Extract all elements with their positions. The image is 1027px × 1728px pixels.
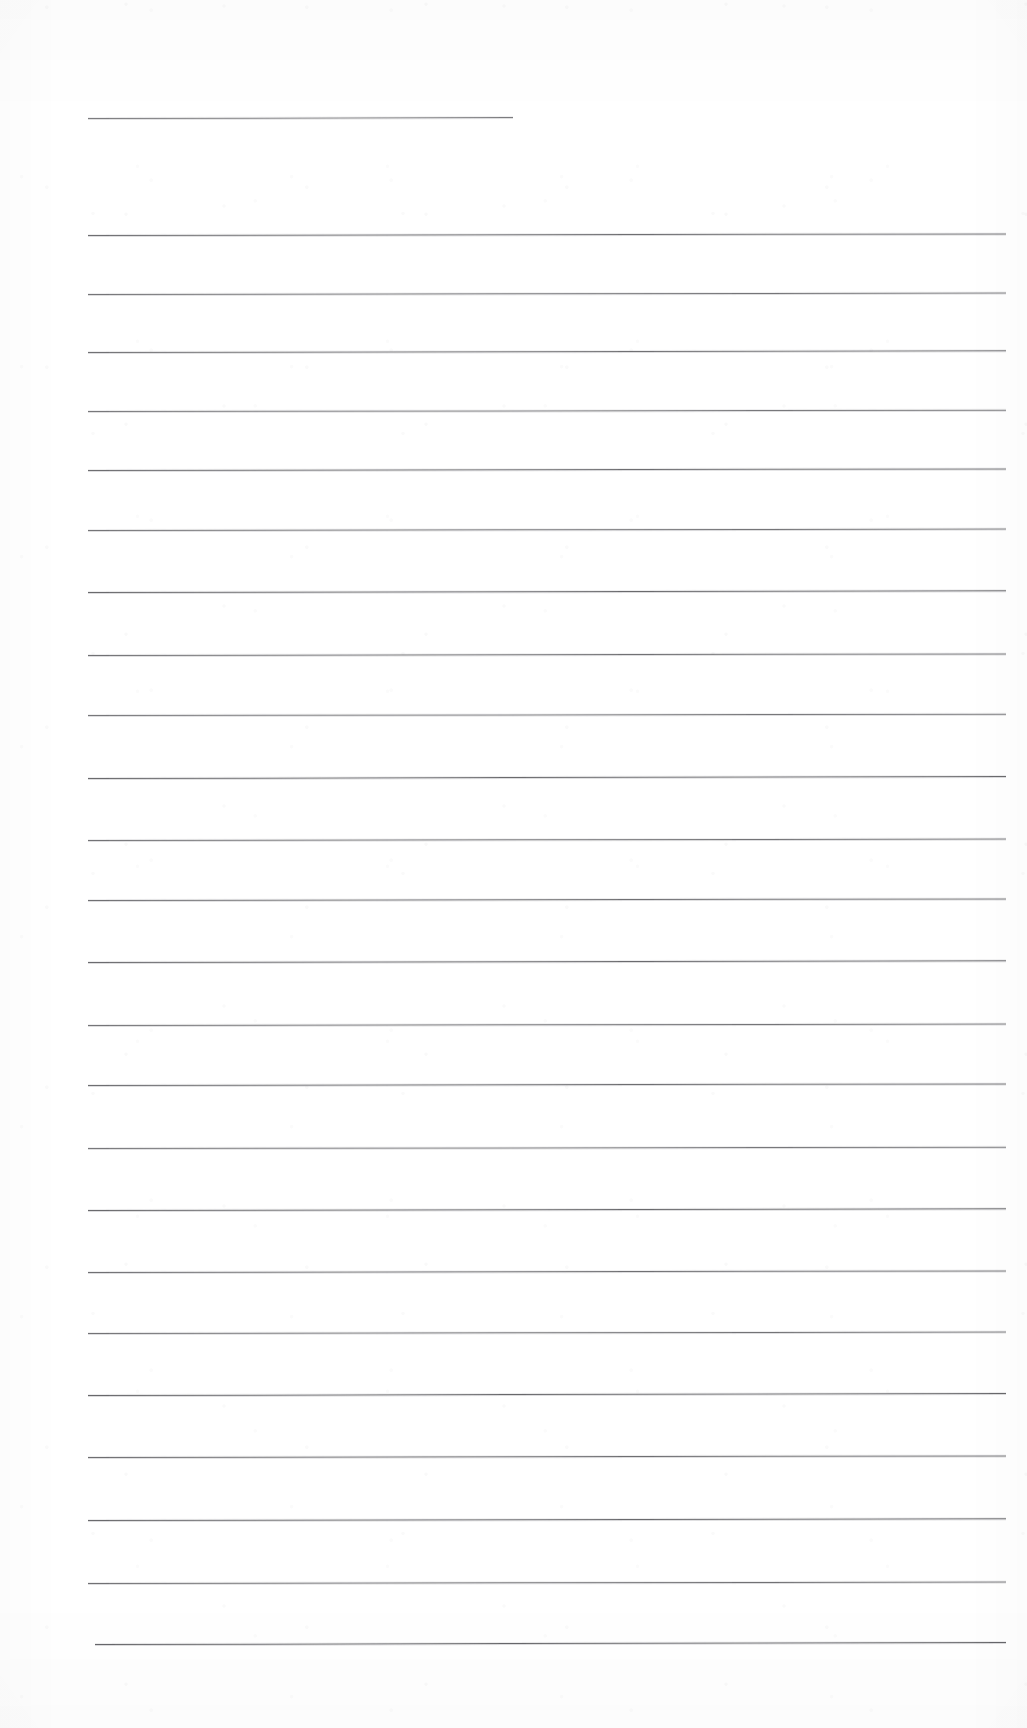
rule-line: [88, 1582, 1006, 1584]
ruled-lines-layer: [0, 0, 1027, 1728]
rule-line: [88, 410, 1006, 412]
rule-line: [95, 1642, 1006, 1645]
rule-line: [88, 293, 1006, 295]
rule-line: [88, 898, 1006, 901]
rule-line: [88, 839, 1006, 841]
rule-line: [88, 350, 1006, 353]
rule-line: [88, 714, 1006, 716]
rule-line: [88, 468, 1006, 471]
rule-line: [88, 1147, 1006, 1149]
rule-line: [88, 1455, 1006, 1458]
rule-line: [88, 653, 1006, 656]
rule-line: [88, 117, 513, 119]
rule-line: [88, 1083, 1006, 1086]
rule-line: [88, 1393, 1006, 1396]
rule-line: [88, 1332, 1006, 1334]
rule-line: [88, 590, 1006, 593]
rule-line: [88, 529, 1006, 531]
rule-line: [88, 960, 1006, 963]
rule-line: [88, 1270, 1006, 1273]
rule-line: [88, 233, 1006, 236]
scanned-page: [0, 0, 1027, 1728]
rule-line: [88, 1208, 1006, 1211]
rule-line: [88, 1024, 1006, 1026]
rule-line: [88, 1518, 1006, 1521]
rule-line: [88, 776, 1006, 779]
